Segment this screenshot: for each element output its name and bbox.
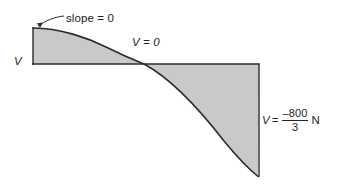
negative-shear-area <box>144 64 259 176</box>
v-end-numerator: –800 <box>282 108 309 121</box>
v-end-denominator: 3 <box>292 121 298 133</box>
v-end-symbol: V <box>262 114 270 127</box>
diagram-canvas <box>0 0 342 188</box>
v-axis-label: V <box>14 55 22 68</box>
slope-zero-label: slope = 0 <box>66 12 114 25</box>
positive-shear-area <box>33 28 144 64</box>
v-end-value-label: V = –800 3 N <box>262 108 320 133</box>
shear-force-diagram-figure: V V = 0 slope = 0 V = –800 3 N <box>0 0 342 188</box>
slope-leader-line <box>38 16 64 26</box>
v-end-fraction: –800 3 <box>282 108 309 133</box>
v-end-equals: = <box>272 114 279 127</box>
v-zero-label: V = 0 <box>132 36 160 49</box>
v-end-unit: N <box>311 114 319 127</box>
